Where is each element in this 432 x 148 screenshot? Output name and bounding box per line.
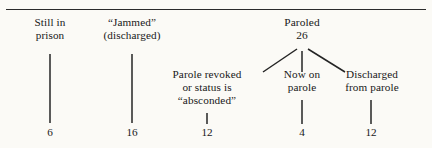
- node-parole-revoked-line1: Parole revoked: [173, 68, 242, 80]
- node-still-in-prison-line1: Still in: [34, 16, 65, 28]
- node-now-on-parole-line1: Now on: [284, 68, 320, 80]
- node-jammed: “Jammed” (discharged): [77, 16, 187, 42]
- node-discharged-from-parole-line2: from parole: [330, 81, 414, 94]
- count-jammed: 16: [102, 126, 162, 138]
- node-jammed-line2: (discharged): [77, 29, 187, 42]
- node-parole-revoked: Parole revoked or status is “absconded”: [147, 68, 267, 106]
- node-parole-revoked-line3: “absconded”: [147, 94, 267, 107]
- tree-diagram-figure: Still in prison “Jammed” (discharged) Pa…: [0, 0, 432, 148]
- node-parole-revoked-line2: or status is: [147, 81, 267, 94]
- count-still-in-prison: 6: [20, 126, 80, 138]
- node-paroled: Paroled 26: [252, 16, 352, 42]
- node-paroled-line1: Paroled: [284, 16, 320, 28]
- node-discharged-from-parole: Discharged from parole: [330, 68, 414, 94]
- node-discharged-from-parole-line1: Discharged: [346, 68, 398, 80]
- count-now-on-parole: 4: [272, 126, 332, 138]
- node-paroled-count: 26: [252, 29, 352, 42]
- node-jammed-line1: “Jammed”: [108, 16, 156, 28]
- count-discharged-from-parole: 12: [341, 126, 401, 138]
- count-parole-revoked: 12: [177, 126, 237, 138]
